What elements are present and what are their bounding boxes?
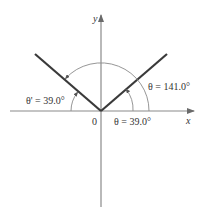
arc-theta-39	[126, 89, 133, 111]
arc-theta-prime	[71, 92, 78, 111]
theta-prime-label: θ' = 39.0°	[26, 95, 65, 106]
theta-39-label: θ = 39.0°	[114, 116, 151, 127]
arc-theta-141	[66, 63, 149, 111]
y-axis-label: y	[92, 13, 98, 24]
x-axis-label: x	[185, 115, 191, 126]
theta-141-label: θ = 141.0°	[148, 81, 190, 92]
origin-label: 0	[92, 116, 97, 127]
angle-diagram: y x 0 θ' = 39.0° θ = 141.0° θ = 39.0°	[0, 0, 205, 220]
